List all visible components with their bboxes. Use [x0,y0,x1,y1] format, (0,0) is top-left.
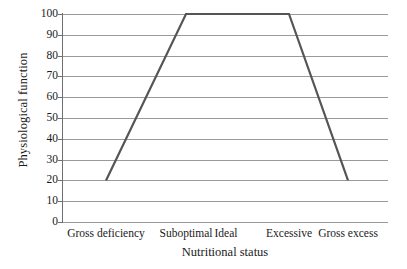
x-tick-label-gross-deficiency: Gross deficiency [67,227,145,240]
y-tick-mark-60 [58,97,63,98]
series-line-physiological-function [106,14,348,180]
y-tick-mark-90 [58,35,63,36]
x-tick-label-ideal: Ideal [215,227,238,240]
x-axis-title: Nutritional status [62,245,388,260]
y-tick-mark-100 [58,14,63,15]
y-tick-mark-50 [58,118,63,119]
y-tick-mark-30 [58,160,63,161]
x-tick-label-suboptimal: Suboptimal [159,227,212,240]
x-tick-label-excessive: Excessive [266,227,312,240]
y-tick-mark-10 [58,201,63,202]
y-tick-mark-20 [58,180,63,181]
chart-figure: Physiological function 01020304050607080… [0,0,407,269]
y-tick-mark-80 [58,56,63,57]
y-tick-mark-0 [58,222,63,223]
x-tick-label-gross-excess: Gross excess [318,227,378,240]
y-tick-mark-40 [58,139,63,140]
x-axis-tick-labels: Gross deficiencySuboptimalIdealExcessive… [0,227,407,243]
y-tick-mark-70 [58,76,63,77]
